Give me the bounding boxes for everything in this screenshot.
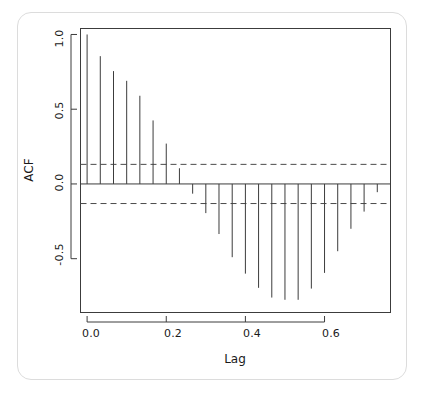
acf-plot-canvas	[0, 0, 424, 396]
x-tick-label-3: 0.4	[239, 327, 265, 340]
y-tick-label-3: 0.0	[53, 168, 66, 198]
y-tick-label-2: 0.5	[53, 96, 66, 126]
y-axis	[71, 34, 77, 258]
x-tick-label-1: 0.0	[78, 327, 104, 340]
y-axis-title: ACF	[22, 150, 36, 190]
acf-bars	[87, 34, 377, 299]
x-tick-label-4: 0.6	[318, 327, 344, 340]
x-axis-title: Lag	[215, 352, 255, 366]
x-axis	[87, 316, 324, 322]
y-tick-label-4: -0.5	[53, 238, 66, 272]
acf-plot: 1.0 0.5 0.0 -0.5 0.0 0.2 0.4 0.6 ACF Lag	[0, 0, 424, 396]
y-tick-label-1: 1.0	[53, 24, 66, 54]
x-tick-label-2: 0.2	[160, 327, 186, 340]
